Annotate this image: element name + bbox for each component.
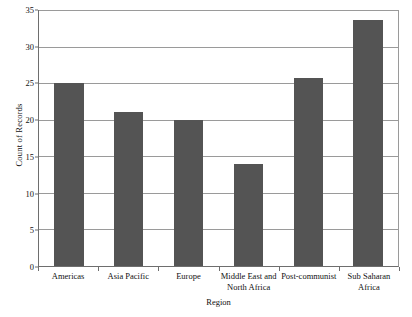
- y-tick-label: 35: [26, 5, 35, 15]
- x-tick-label-line: Americas: [52, 271, 85, 281]
- bar[interactable]: [174, 120, 203, 266]
- x-tick-label: Americas: [38, 271, 98, 292]
- y-tick-label: 20: [26, 115, 35, 125]
- bar[interactable]: [353, 20, 382, 266]
- bar[interactable]: [114, 112, 143, 266]
- y-tick-label: 10: [26, 189, 35, 199]
- x-tick-label-line: Post-communist: [281, 271, 336, 281]
- bar-slot: [338, 10, 398, 266]
- bar-series: [39, 10, 398, 266]
- y-tick-label: 0: [30, 262, 34, 272]
- x-tick-label-line: Asia Pacific: [108, 271, 149, 281]
- bar-slot: [159, 10, 219, 266]
- bar-chart: Count of Records 05101520253035 Americas…: [0, 0, 412, 317]
- x-tick-label: Asia Pacific: [98, 271, 158, 292]
- y-axis-ticks: 05101520253035: [0, 10, 38, 267]
- x-axis-labels: AmericasAsia PacificEuropeMiddle East an…: [38, 271, 399, 292]
- x-tick-label: Europe: [158, 271, 218, 292]
- y-tick-label: 5: [30, 225, 34, 235]
- y-tick-label: 15: [26, 152, 35, 162]
- bar[interactable]: [294, 78, 323, 266]
- bar-slot: [278, 10, 338, 266]
- x-tick-label-line: North Africa: [220, 282, 278, 293]
- bar[interactable]: [54, 83, 83, 266]
- bar[interactable]: [234, 164, 263, 266]
- x-tick-label: Post-communist: [279, 271, 339, 292]
- plot-area: [38, 10, 399, 267]
- x-tick-label-line: Europe: [176, 271, 201, 281]
- x-tick-label-line: Middle East and: [221, 271, 277, 281]
- bar-slot: [218, 10, 278, 266]
- y-tick-label: 30: [26, 42, 35, 52]
- x-axis-title: Region: [38, 297, 399, 307]
- x-tick-mark: [399, 267, 400, 271]
- bar-slot: [39, 10, 99, 266]
- bar-slot: [99, 10, 159, 266]
- x-tick-label: Middle East andNorth Africa: [219, 271, 279, 292]
- x-tick-label-line: Sub Saharan Africa: [348, 271, 391, 292]
- y-tick-label: 25: [26, 78, 35, 88]
- x-tick-label: Sub Saharan Africa: [339, 271, 399, 292]
